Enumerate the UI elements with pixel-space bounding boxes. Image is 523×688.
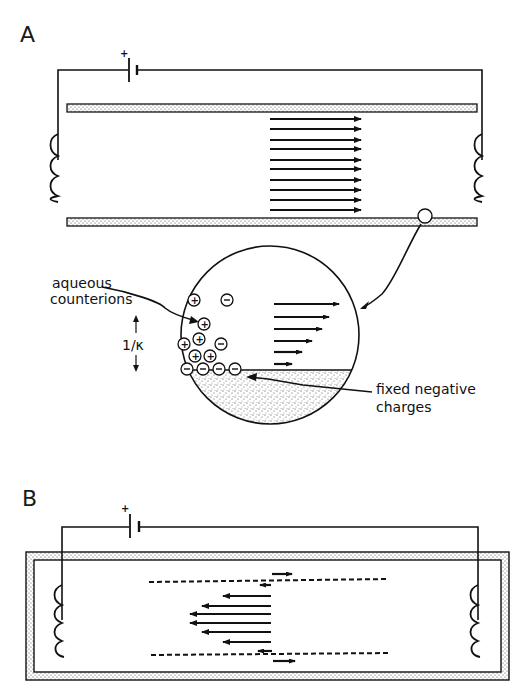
positive-ion-icon: + [193,333,205,345]
plug-flow-arrows [270,119,361,210]
panel-b: B + [22,486,509,680]
svg-text:+: + [192,351,200,362]
svg-text:+: + [196,334,204,345]
magnified-spot-icon [418,209,432,223]
positive-ion-icon: + [204,350,216,362]
battery-plus-label: + [120,48,128,59]
top-wall [67,104,477,112]
positive-ion-icon: + [178,338,190,350]
counterions-label-line2: counterions [50,291,133,307]
positive-ion-icon: + [189,350,201,362]
left-electrode-coil-icon [51,134,59,202]
counterions-label-line1: aqueous [52,275,112,291]
capillary-walls-a [67,104,477,226]
counterions-annotation: aqueous counterions [50,275,199,324]
circuit-a: + [51,48,483,202]
svg-text:+: + [201,319,209,330]
positive-ion-icon: + [198,318,210,330]
fixed-charges-label-line2: charges [376,399,431,415]
negative-ion-icon [215,338,227,350]
battery-plus-label: + [121,503,129,514]
positive-ion-icon: + [188,294,200,306]
magnified-view: + + + + + + [170,246,370,430]
electroosmosis-diagram: A + [0,0,523,688]
sealed-chamber [26,552,509,680]
negative-ion-icon [197,363,209,375]
right-electrode-coil-icon [475,134,483,202]
panel-b-label: B [22,486,37,511]
battery-icon: + [120,48,137,82]
battery-icon: + [121,503,139,538]
negative-ion-icon [229,363,241,375]
bottom-wall [67,218,477,226]
negative-ion-icon [221,294,233,306]
svg-text:+: + [191,295,199,306]
negative-ion-icon [181,363,193,375]
debye-length-annotation: 1/κ [122,315,144,372]
panel-a-label: A [20,22,35,47]
svg-text:+: + [207,351,215,362]
panel-a: A + [20,22,482,430]
negative-ion-icon [213,363,225,375]
magnify-pointer-arrow [362,224,421,308]
svg-text:+: + [181,339,189,350]
debye-length-label: 1/κ [122,337,144,353]
fixed-charges-label-line1: fixed negative [376,381,476,397]
